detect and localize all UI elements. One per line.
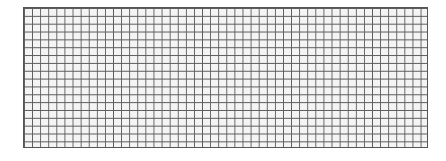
empty-grid	[23, 7, 428, 148]
